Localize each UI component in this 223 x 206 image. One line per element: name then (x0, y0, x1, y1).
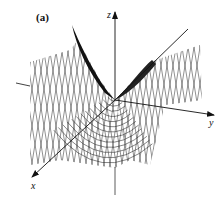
saddle-surface-plot (0, 0, 223, 206)
y-axis-label: y (209, 118, 213, 128)
x-axis-back (16, 83, 30, 86)
x-axis-label: x (31, 181, 35, 191)
panel-label: (a) (36, 12, 49, 23)
y-axis (115, 100, 214, 115)
z-axis-label: z (107, 10, 111, 20)
x-axis (32, 100, 115, 177)
